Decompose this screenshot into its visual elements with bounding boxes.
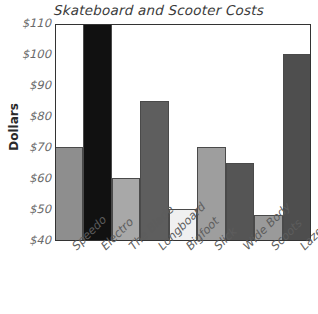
bars-container	[56, 25, 310, 240]
bar	[56, 147, 83, 240]
y-tick-label: $90	[18, 80, 53, 91]
y-tick-label: $60	[18, 173, 53, 184]
x-axis-tick-labels: SpeedoElectroThe BladeLongboardBigfootSl…	[55, 243, 311, 314]
y-tick-label: $50	[18, 204, 53, 215]
y-tick-label: $100	[18, 49, 53, 60]
y-tick-label: $80	[18, 111, 53, 122]
y-tick-label: $110	[18, 18, 53, 29]
bar-chart: Skateboard and Scooter Costs Dollars $11…	[0, 0, 318, 314]
y-tick-label: $70	[18, 142, 53, 153]
y-axis-tick-labels: $110$100$90$80$70$60$50$40	[18, 22, 52, 248]
y-tick-label: $40	[18, 235, 53, 246]
